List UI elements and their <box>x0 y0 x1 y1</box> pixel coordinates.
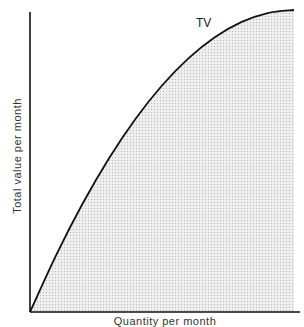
x-axis-label: Quantity per month <box>30 315 300 327</box>
tv-curve-label: TV <box>196 16 211 30</box>
y-axis-label: Total value per month <box>11 81 23 231</box>
area-fill <box>30 10 294 312</box>
